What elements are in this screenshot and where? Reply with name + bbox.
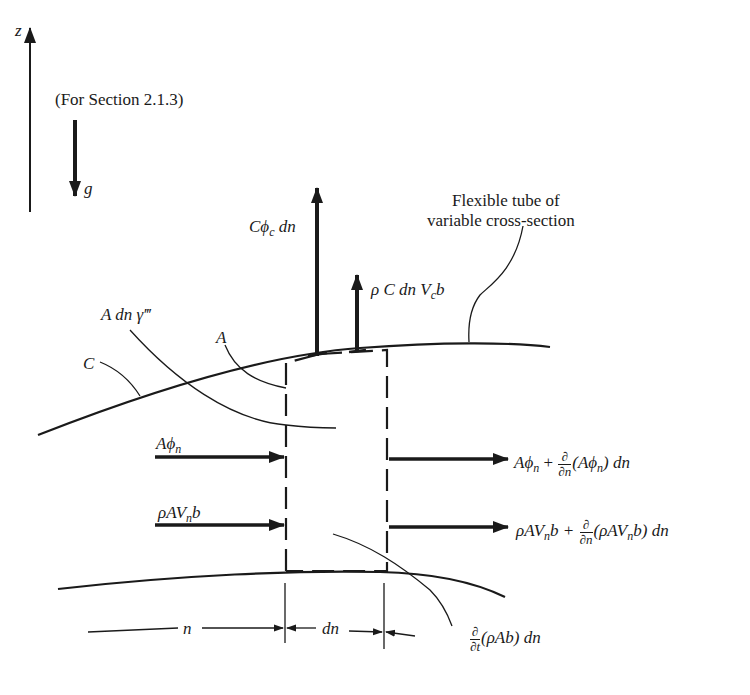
perimeter-label: C [83,355,94,372]
dimension-lines [88,583,415,649]
tube-upper-wall [38,343,550,435]
section-note: (For Section 2.1.3) [55,91,183,108]
gamma-label-leader [130,330,336,428]
tube-label-line2: variable cross-section [427,212,575,229]
tube-label-line1: Flexible tube of [452,192,560,209]
tube-label-leader [469,226,523,342]
area-label: A [216,329,226,346]
tube-lower-wall [58,572,505,597]
dimension-dn-label: dn [322,620,339,637]
control-volume-dashed-box [286,350,387,571]
heat-generation-label: A dn γ‴ [101,306,150,323]
gravity-label: g [84,180,93,197]
wall-mass-flux-label: ρ C dn Vcb [371,281,444,301]
wall-mass-flux-arrow [349,275,366,352]
c-label-leader [100,362,140,396]
conduction-flux-label: Cϕc dn [249,218,296,238]
z-axis-label: z [15,22,22,39]
dimension-n-label: n [183,620,192,637]
conduction-flux-arrow [308,188,327,356]
inflow-phi-label: Aϕn [156,435,181,455]
outflow-phi-label: Aϕn + ∂∂n(Aϕn) dn [514,450,630,478]
outflow-mass-label: ρAVnb + ∂∂n(ρAVnb) dn [516,518,669,546]
area-label-leader [225,345,286,388]
storage-label-leader [333,534,452,626]
storage-term-label: ∂∂t(ρAb) dn [469,625,541,653]
inflow-mass-label: ρAVnb [158,504,201,524]
